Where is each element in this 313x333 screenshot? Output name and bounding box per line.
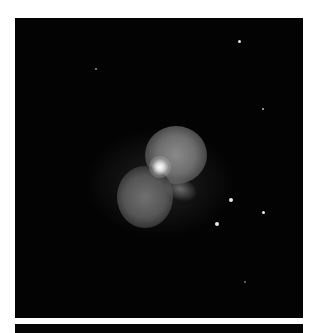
- central-star: [149, 156, 171, 178]
- star: [215, 222, 219, 226]
- star: [262, 108, 264, 110]
- star: [244, 281, 246, 283]
- star: [238, 40, 241, 43]
- star: [262, 211, 265, 214]
- star: [95, 68, 97, 70]
- star: [229, 198, 233, 202]
- next-image-strip: [15, 324, 303, 333]
- nebula-image: [15, 18, 303, 318]
